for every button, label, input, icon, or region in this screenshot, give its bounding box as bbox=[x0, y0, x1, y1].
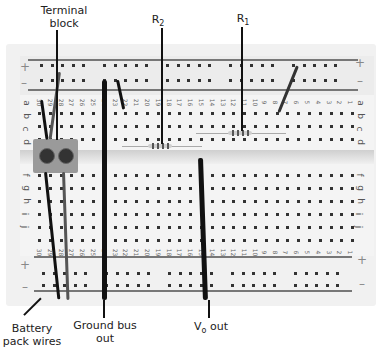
hole bbox=[232, 138, 235, 141]
hole bbox=[222, 200, 225, 203]
hole bbox=[211, 138, 214, 141]
hole bbox=[286, 239, 289, 242]
hole bbox=[351, 226, 354, 229]
hole bbox=[70, 200, 73, 203]
terminal-block bbox=[33, 139, 78, 173]
hole bbox=[179, 284, 182, 287]
hole bbox=[319, 213, 322, 216]
row-label: c bbox=[21, 127, 31, 132]
hole bbox=[250, 64, 253, 67]
hole bbox=[177, 79, 180, 82]
hole bbox=[254, 239, 257, 242]
hole bbox=[319, 200, 322, 203]
hole bbox=[146, 213, 149, 216]
hole bbox=[261, 64, 264, 67]
bottom-rail-plus-sign-right: + bbox=[357, 253, 367, 267]
hole bbox=[351, 200, 354, 203]
hole bbox=[208, 64, 211, 67]
leader-terminal-block bbox=[56, 30, 58, 140]
hole bbox=[319, 112, 322, 115]
column-number: 21 bbox=[134, 99, 141, 107]
hole bbox=[242, 272, 245, 275]
hole bbox=[210, 272, 213, 275]
hole bbox=[254, 213, 257, 216]
hole bbox=[351, 187, 354, 190]
hole bbox=[92, 138, 95, 141]
hole bbox=[222, 125, 225, 128]
hole bbox=[166, 64, 169, 67]
hole bbox=[243, 125, 246, 128]
hole bbox=[286, 112, 289, 115]
hole bbox=[303, 79, 306, 82]
hole bbox=[157, 125, 160, 128]
hole bbox=[168, 213, 171, 216]
hole bbox=[286, 226, 289, 229]
hole bbox=[305, 284, 308, 287]
hole bbox=[146, 226, 149, 229]
top-rail-line-plus bbox=[28, 59, 358, 61]
column-number: 10 bbox=[252, 99, 259, 107]
row-label: a bbox=[356, 100, 366, 106]
column-number: 20 bbox=[144, 99, 151, 107]
column-number: 1 bbox=[348, 251, 355, 255]
hole bbox=[114, 138, 117, 141]
leader-r2 bbox=[161, 28, 163, 144]
row-label: i bbox=[354, 213, 364, 216]
column-number: 11 bbox=[242, 99, 249, 107]
hole bbox=[232, 174, 235, 177]
column-number: 4 bbox=[315, 251, 322, 255]
row-label: c bbox=[355, 127, 365, 132]
hole bbox=[187, 79, 190, 82]
hole bbox=[336, 284, 339, 287]
hole bbox=[305, 272, 308, 275]
hole bbox=[116, 272, 119, 275]
hole bbox=[146, 125, 149, 128]
hole bbox=[157, 213, 160, 216]
hole bbox=[265, 112, 268, 115]
column-number: 18 bbox=[166, 99, 173, 107]
hole bbox=[265, 239, 268, 242]
hole bbox=[330, 112, 333, 115]
hole bbox=[189, 284, 192, 287]
hole bbox=[81, 213, 84, 216]
column-number: 13 bbox=[220, 99, 227, 107]
hole bbox=[38, 200, 41, 203]
hole bbox=[81, 138, 84, 141]
hole bbox=[189, 187, 192, 190]
hole bbox=[60, 112, 63, 115]
hole bbox=[81, 226, 84, 229]
hole bbox=[124, 79, 127, 82]
hole bbox=[211, 187, 214, 190]
hole bbox=[271, 79, 274, 82]
hole bbox=[351, 112, 354, 115]
hole bbox=[157, 138, 160, 141]
hole bbox=[254, 112, 257, 115]
hole bbox=[178, 226, 181, 229]
hole bbox=[286, 138, 289, 141]
bottom-rail-line-2 bbox=[34, 290, 352, 292]
hole bbox=[265, 174, 268, 177]
hole bbox=[114, 200, 117, 203]
hole bbox=[60, 226, 63, 229]
hole bbox=[38, 213, 41, 216]
hole bbox=[168, 200, 171, 203]
hole bbox=[243, 112, 246, 115]
column-number: 8 bbox=[272, 251, 279, 255]
hole bbox=[82, 79, 85, 82]
resistor-r2 bbox=[148, 144, 172, 148]
hole bbox=[42, 272, 45, 275]
hole bbox=[265, 138, 268, 141]
hole bbox=[297, 239, 300, 242]
hole bbox=[261, 79, 264, 82]
hole bbox=[276, 239, 279, 242]
hole bbox=[124, 200, 127, 203]
hole bbox=[243, 187, 246, 190]
hole bbox=[124, 138, 127, 141]
column-number: 26 bbox=[80, 99, 87, 107]
hole bbox=[168, 187, 171, 190]
hole bbox=[211, 112, 214, 115]
hole bbox=[198, 64, 201, 67]
column-number: 14 bbox=[209, 99, 216, 107]
row-label: a bbox=[22, 100, 32, 106]
leader-vo bbox=[208, 300, 210, 318]
